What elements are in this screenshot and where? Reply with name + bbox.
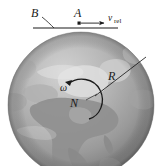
label-n: N	[69, 96, 79, 110]
particle-a-marker	[78, 22, 81, 25]
b-leader-line	[42, 17, 54, 28]
label-v-rel-subscript: rel	[114, 17, 121, 25]
limb-shading	[8, 32, 154, 166]
label-omega: ω	[60, 82, 67, 93]
diagram-canvas: B A v rel R ω N	[0, 0, 164, 166]
earth-rotating-frame-figure: B A v rel R ω N	[0, 0, 164, 166]
label-b: B	[31, 6, 39, 20]
label-v-rel-symbol: v	[108, 13, 113, 23]
label-a: A	[73, 6, 82, 20]
label-r: R	[107, 69, 116, 83]
earth-globe	[0, 32, 157, 166]
